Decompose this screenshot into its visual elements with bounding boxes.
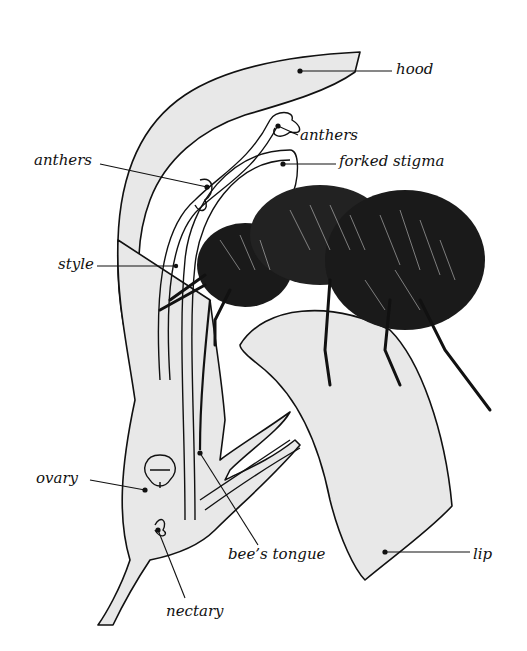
label-bees-tongue: bee’s tongue [228,547,325,562]
label-anthers-upper: anthers [300,128,358,143]
label-nectary: nectary [166,604,224,619]
label-forked-stigma: forked stigma [339,154,444,169]
label-style: style [58,257,94,272]
label-anthers-left: anthers [34,153,92,168]
label-hood: hood [396,62,433,77]
label-lip: lip [473,547,492,562]
flower-bee-diagram: hood anthers anthers forked stigma style… [0,0,527,651]
lip-shape [240,311,452,580]
label-ovary: ovary [36,471,78,486]
